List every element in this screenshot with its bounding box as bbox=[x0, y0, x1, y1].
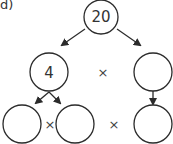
node-four-value: 4 bbox=[44, 64, 54, 82]
factor-tree: 20 4 × × × bbox=[0, 0, 173, 144]
times-sign-bottom-left: × bbox=[45, 117, 56, 132]
root-node: 20 bbox=[84, 0, 118, 34]
node-blank-right[interactable] bbox=[134, 53, 172, 91]
root-value: 20 bbox=[91, 8, 110, 26]
node-four: 4 bbox=[30, 53, 68, 91]
times-sign-middle: × bbox=[98, 65, 109, 80]
arrow-root-to-left bbox=[62, 29, 85, 45]
arrow-four-to-left bbox=[36, 92, 49, 103]
times-sign-bottom-right: × bbox=[109, 117, 120, 132]
arrow-root-to-right bbox=[117, 29, 140, 45]
node-blank-bottom-left[interactable] bbox=[3, 105, 41, 143]
node-blank-bottom-right[interactable] bbox=[134, 105, 172, 143]
node-blank-bottom-middle[interactable] bbox=[56, 105, 94, 143]
arrow-four-to-right bbox=[49, 92, 60, 103]
